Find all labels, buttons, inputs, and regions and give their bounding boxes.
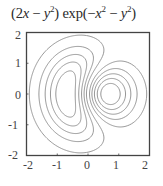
x-tick-label: 2: [142, 158, 148, 173]
plot-frame: [27, 33, 150, 156]
contour-lines: [29, 35, 146, 153]
y-tick-label: 1: [15, 56, 21, 71]
x-tick-label: -1: [52, 158, 62, 173]
y-tick-label: 0: [15, 88, 21, 103]
y-tick-label: -2: [8, 148, 18, 163]
axis-ticks: [27, 33, 150, 156]
contour-line: [50, 62, 81, 126]
y-tick-label: -1: [8, 118, 18, 133]
contour-line: [101, 83, 120, 104]
x-tick-label: 0: [84, 158, 90, 173]
contour-line: [90, 61, 147, 127]
x-tick-label: -2: [23, 158, 33, 173]
y-tick-label: 2: [15, 28, 21, 43]
contour-line: [92, 69, 137, 120]
x-tick-label: 1: [113, 158, 119, 173]
contour-line: [39, 46, 94, 141]
contour-line: [56, 71, 76, 117]
contour-line: [29, 35, 104, 153]
